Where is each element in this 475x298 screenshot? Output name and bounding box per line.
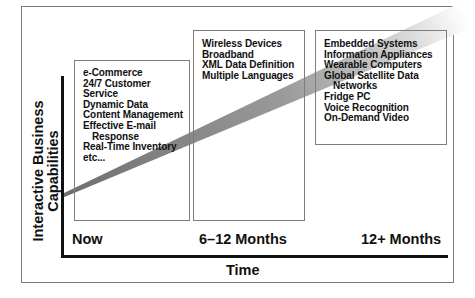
- time-tick-now: Now: [72, 231, 103, 247]
- capability-item: Fridge PC: [324, 92, 446, 103]
- x-axis-label: Time: [226, 262, 260, 278]
- stage-box-now: e-Commerce 24/7 Customer Service Dynamic…: [74, 60, 190, 221]
- capability-item: Multiple Languages: [202, 71, 304, 82]
- x-axis-line: [61, 255, 448, 258]
- capability-item: Effective E-mail: [83, 121, 189, 132]
- time-tick-12-plus-months: 12+ Months: [361, 231, 441, 247]
- capability-item: etc...: [83, 153, 189, 164]
- stage-box-12-plus-months: Embedded Systems Information Appliances …: [315, 30, 447, 145]
- capability-item: Embedded Systems: [324, 39, 446, 50]
- y-axis-label-line1: Interactive Business: [31, 81, 46, 261]
- capability-item: Wireless Devices: [202, 39, 304, 50]
- capability-item: On-Demand Video: [324, 113, 446, 124]
- stage-box-6-12-months: Wireless Devices Broadband XML Data Defi…: [193, 30, 305, 221]
- y-axis-line: [61, 76, 64, 258]
- y-axis-label-line2: Capabilities: [46, 81, 61, 261]
- capability-item: e-Commerce: [83, 68, 189, 79]
- time-tick-6-12-months: 6–12 Months: [199, 231, 287, 247]
